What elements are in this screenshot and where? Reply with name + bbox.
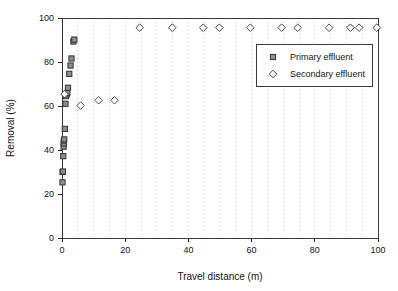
legend-item-label: Primary effluent (290, 52, 353, 62)
x-tick-label: 60 (247, 245, 257, 255)
data-point-primary-effluent (270, 54, 275, 59)
x-axis-title: Travel distance (m) (177, 271, 262, 282)
data-point-primary-effluent (63, 101, 68, 106)
data-point-secondary-effluent (111, 96, 119, 104)
data-point-primary-effluent (60, 180, 65, 185)
x-tick-label: 100 (370, 245, 385, 255)
y-tick-label: 20 (44, 189, 54, 199)
data-point-primary-effluent (68, 63, 73, 68)
data-point-secondary-effluent (216, 24, 224, 32)
data-point-primary-effluent (72, 37, 77, 42)
chart-legend: Primary effluentSecondary effluent (256, 44, 372, 86)
data-point-secondary-effluent (347, 24, 355, 32)
x-tick-label: 0 (59, 245, 64, 255)
y-axis-ticks-group (58, 18, 62, 238)
data-point-primary-effluent (61, 154, 66, 159)
data-point-secondary-effluent (247, 24, 255, 32)
data-point-secondary-effluent (325, 24, 333, 32)
legend-border (256, 44, 372, 86)
data-point-secondary-effluent (278, 24, 286, 32)
data-point-primary-effluent (67, 71, 72, 76)
data-point-primary-effluent (60, 169, 65, 174)
x-tick-label: 40 (183, 245, 193, 255)
y-tick-label: 100 (39, 13, 54, 23)
x-tick-label: 80 (310, 245, 320, 255)
data-point-secondary-effluent (199, 24, 207, 32)
data-point-primary-effluent (65, 85, 70, 90)
x-axis-tick-labels-group: 020406080100 (59, 245, 385, 255)
y-tick-label: 80 (44, 57, 54, 67)
data-point-primary-effluent (69, 56, 74, 61)
y-tick-label: 60 (44, 101, 54, 111)
data-point-secondary-effluent (373, 24, 381, 32)
data-point-secondary-effluent (168, 24, 176, 32)
data-point-secondary-effluent (294, 24, 302, 32)
data-point-secondary-effluent (95, 96, 103, 104)
scatter-chart-figure: 020406080100 020406080100 Travel distanc… (0, 0, 398, 291)
chart-canvas: 020406080100 020406080100 Travel distanc… (0, 0, 398, 291)
data-point-secondary-effluent (355, 24, 363, 32)
data-point-primary-effluent (62, 126, 67, 131)
y-tick-label: 0 (49, 233, 54, 243)
data-point-secondary-effluent (136, 24, 144, 32)
y-axis-title: Removal (%) (5, 99, 16, 157)
y-tick-label: 40 (44, 145, 54, 155)
data-point-primary-effluent (62, 137, 67, 142)
legend-item-label: Secondary effluent (290, 69, 365, 79)
y-axis-tick-labels-group: 020406080100 (39, 13, 54, 243)
x-axis-ticks-group (62, 238, 378, 242)
x-tick-label: 20 (120, 245, 130, 255)
